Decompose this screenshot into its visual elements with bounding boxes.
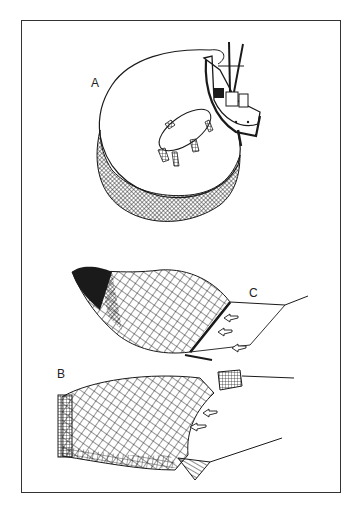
fishing-gear-illustration xyxy=(0,0,360,511)
panel-c-trawl xyxy=(72,267,308,360)
trawl-door-upper xyxy=(218,370,242,390)
net-bundles xyxy=(158,120,213,166)
panel-b-trawl xyxy=(58,370,294,480)
panel-label-c: C xyxy=(249,287,258,299)
seine-net-wall xyxy=(97,130,240,221)
panel-label-b: B xyxy=(57,368,65,380)
trawl-door-lower xyxy=(178,458,210,480)
panel-a-purse-seine xyxy=(97,42,260,221)
trawl-c-net-body xyxy=(72,270,230,353)
panel-label-a: A xyxy=(91,77,99,89)
fish-arrow-icons xyxy=(218,314,246,352)
